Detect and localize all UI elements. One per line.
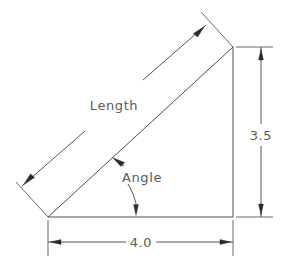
- length-dimension-group: Length: [16, 12, 233, 217]
- length-dimension-arrow-upper: [193, 26, 204, 37]
- base-dimension-arrow-left: [50, 240, 61, 245]
- hypotenuse-length-label: Length: [90, 98, 138, 113]
- diagram-canvas: 3.5 4.0: [0, 0, 281, 262]
- base-dimension-arrow-right: [220, 240, 231, 245]
- length-extension-line-upper: [201, 12, 233, 47]
- triangle-outline: [48, 47, 233, 217]
- angle-arrow-base: [134, 205, 139, 216]
- base-dimension-group: 4.0: [48, 220, 233, 256]
- height-dimension-group: 3.5: [236, 47, 273, 217]
- length-extension-line-lower: [16, 182, 48, 217]
- triangle-dimension-drawing: 3.5 4.0: [0, 0, 281, 262]
- triangle-hypotenuse-edge: [48, 47, 233, 217]
- height-dimension-label: 3.5: [250, 128, 272, 143]
- height-dimension-arrow-bottom: [259, 204, 264, 215]
- height-dimension-arrow-top: [259, 49, 264, 60]
- angle-annotation-group: Angle: [113, 158, 162, 216]
- length-dimension-arrow-lower: [24, 174, 35, 185]
- angle-leader-to-base: [128, 184, 136, 204]
- base-dimension-label: 4.0: [130, 235, 152, 250]
- angle-label: Angle: [122, 170, 162, 185]
